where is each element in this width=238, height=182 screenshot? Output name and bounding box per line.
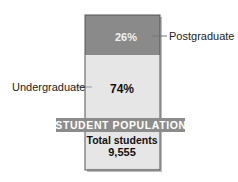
- total-students-label: Total students: [87, 134, 158, 146]
- chart-title: STUDENT POPULATION: [55, 119, 186, 131]
- stacked-bar-chart: Postgraduate Undergraduate 26% 74% STUDE…: [0, 0, 238, 182]
- postgraduate-value-label: 26%: [115, 31, 137, 43]
- total-students-value: 9,555: [108, 146, 136, 158]
- postgraduate-label: Postgraduate: [169, 30, 234, 42]
- undergraduate-value-label: 74%: [110, 82, 134, 96]
- undergraduate-label: Undergraduate: [12, 81, 85, 93]
